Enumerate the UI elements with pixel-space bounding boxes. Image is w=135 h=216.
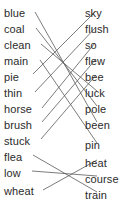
right-word-column: skyflushsoflewbeeluckpolebeenpinheatcour…	[85, 0, 131, 216]
right-word-so[interactable]: so	[85, 40, 97, 51]
right-word-been[interactable]: been	[85, 120, 110, 131]
right-word-flush[interactable]: flush	[85, 24, 109, 35]
left-word-clean[interactable]: clean	[4, 40, 31, 51]
right-word-bee[interactable]: bee	[85, 72, 104, 83]
left-word-horse[interactable]: horse	[4, 104, 32, 115]
right-word-pole[interactable]: pole	[85, 104, 106, 115]
right-word-heat[interactable]: heat	[85, 158, 107, 169]
right-word-flew[interactable]: flew	[85, 56, 105, 67]
left-word-stuck[interactable]: stuck	[4, 136, 30, 147]
left-word-coal[interactable]: coal	[4, 24, 25, 35]
right-word-sky[interactable]: sky	[85, 8, 102, 19]
left-word-thin[interactable]: thin	[4, 88, 22, 99]
left-word-pie[interactable]: pie	[4, 72, 19, 83]
left-word-main[interactable]: main	[4, 56, 28, 67]
worksheet-page: bluecoalcleanmainpiethinhorsebrushstuckf…	[0, 0, 135, 216]
right-word-pin[interactable]: pin	[85, 140, 100, 151]
left-word-blue[interactable]: blue	[4, 8, 25, 19]
right-word-course[interactable]: course	[85, 174, 119, 185]
left-word-wheat[interactable]: wheat	[4, 186, 34, 197]
left-word-flea[interactable]: flea	[4, 152, 22, 163]
left-word-low[interactable]: low	[4, 168, 21, 179]
left-word-brush[interactable]: brush	[4, 120, 32, 131]
right-word-train[interactable]: train	[85, 190, 107, 201]
left-word-column: bluecoalcleanmainpiethinhorsebrushstuckf…	[4, 0, 50, 216]
right-word-luck[interactable]: luck	[85, 88, 105, 99]
